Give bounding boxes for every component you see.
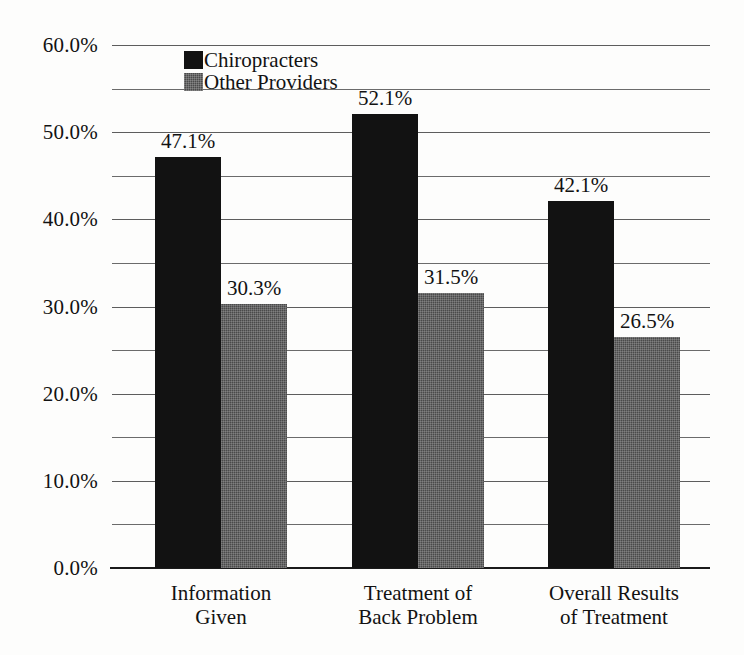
- y-axis-tick-label: 30.0%: [43, 294, 98, 319]
- x-axis-category-label: InformationGiven: [121, 581, 321, 630]
- bar-other-providers: 26.5%: [614, 337, 680, 568]
- y-axis-tick-label: 50.0%: [43, 120, 98, 145]
- bar-value-label: 47.1%: [161, 129, 215, 154]
- bar-chiropracters: 42.1%: [548, 201, 614, 568]
- bar-group: 47.1%30.3%InformationGiven: [155, 45, 287, 568]
- legend-item: Chiropracters: [184, 49, 338, 71]
- x-axis-label-line: Given: [121, 605, 321, 629]
- legend-item: Other Providers: [184, 71, 338, 93]
- bar-chiropracters: 47.1%: [155, 157, 221, 568]
- x-axis-label-line: Back Problem: [318, 605, 518, 629]
- y-axis-tick-label: 60.0%: [43, 33, 98, 58]
- bar-value-label: 52.1%: [358, 86, 412, 111]
- legend-label: Other Providers: [203, 71, 338, 93]
- x-axis-label-line: of Treatment: [514, 605, 714, 629]
- legend-swatch-icon: [184, 51, 203, 69]
- legend-label: Chiropracters: [203, 49, 318, 71]
- bar-other-providers: 31.5%: [418, 293, 484, 568]
- y-axis-tick-label: 0.0%: [53, 556, 98, 581]
- bar-other-providers: 30.3%: [221, 304, 287, 568]
- y-axis-tick-label: 10.0%: [43, 468, 98, 493]
- bar-value-label: 31.5%: [424, 265, 478, 290]
- x-axis-label-line: Treatment of: [318, 581, 518, 605]
- chart-figure: 0.0%10.0%20.0%30.0%40.0%50.0%60.0% 47.1%…: [0, 0, 744, 655]
- bar-value-label: 30.3%: [227, 276, 281, 301]
- bar-group: 52.1%31.5%Treatment ofBack Problem: [352, 45, 484, 568]
- bar-value-label: 26.5%: [620, 309, 674, 334]
- y-axis-tick-label: 20.0%: [43, 381, 98, 406]
- bar-chiropracters: 52.1%: [352, 114, 418, 568]
- x-axis-label-line: Overall Results: [514, 581, 714, 605]
- bar-value-label: 42.1%: [554, 173, 608, 198]
- legend-swatch-icon: [184, 73, 203, 91]
- x-axis-label-line: Information: [121, 581, 321, 605]
- x-axis-category-label: Overall Resultsof Treatment: [514, 581, 714, 630]
- x-axis-category-label: Treatment ofBack Problem: [318, 581, 518, 630]
- y-axis-tick-label: 40.0%: [43, 207, 98, 232]
- plot-area: 0.0%10.0%20.0%30.0%40.0%50.0%60.0% 47.1%…: [112, 45, 710, 568]
- chart-legend: ChiropractersOther Providers: [184, 49, 338, 94]
- bar-group: 42.1%26.5%Overall Resultsof Treatment: [548, 45, 680, 568]
